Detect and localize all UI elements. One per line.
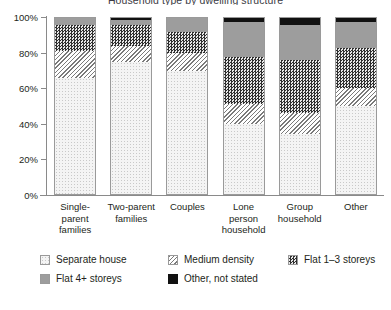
bar-segment[interactable] [336, 88, 376, 106]
bar-segment[interactable] [336, 48, 376, 88]
legend-item[interactable]: Medium density [168, 254, 288, 265]
legend-swatch-icon [40, 274, 50, 284]
legend-item[interactable]: Flat 4+ storeys [40, 273, 168, 284]
legend-item[interactable]: Other, not stated [168, 273, 288, 284]
y-axis-tick-label: 80% [0, 49, 38, 59]
legend-item[interactable]: Flat 1–3 storeys [288, 254, 375, 265]
bar-stack[interactable] [335, 17, 377, 195]
bar-segment[interactable] [167, 18, 207, 32]
x-axis-category-label: Other [321, 201, 391, 213]
bar-segment[interactable] [111, 46, 151, 62]
bar-stack[interactable] [166, 17, 208, 195]
legend-item-label: Medium density [184, 254, 254, 265]
bar-segment[interactable] [336, 106, 376, 194]
bar-segment[interactable] [280, 18, 320, 25]
bar-stack[interactable] [223, 17, 265, 195]
bar-segment[interactable] [111, 25, 151, 46]
bar-segment[interactable] [167, 32, 207, 53]
bar-segment[interactable] [55, 78, 95, 194]
x-axis-line [40, 195, 384, 196]
y-axis-tick-label: 60% [0, 84, 38, 94]
bar-segment[interactable] [167, 71, 207, 194]
chart-legend: Separate houseMedium densityFlat 1–3 sto… [40, 254, 380, 292]
legend-item-label: Flat 1–3 storeys [304, 254, 375, 265]
bar-stack[interactable] [54, 17, 96, 195]
bar-segment[interactable] [224, 22, 264, 57]
legend-row: Separate houseMedium densityFlat 1–3 sto… [40, 254, 380, 265]
bar-segment[interactable] [55, 18, 95, 25]
bar-segment[interactable] [224, 124, 264, 194]
legend-swatch-icon [288, 255, 298, 265]
y-axis-tick-label: 20% [0, 155, 38, 165]
bar-segment[interactable] [55, 25, 95, 51]
legend-row: Flat 4+ storeysOther, not stated [40, 273, 380, 284]
legend-item-label: Separate house [56, 254, 127, 265]
bar-stack[interactable] [279, 17, 321, 195]
y-axis-tick [41, 195, 47, 196]
y-axis-tick-label: 0% [0, 191, 38, 201]
legend-item-label: Other, not stated [184, 273, 258, 284]
bar-segment[interactable] [224, 104, 264, 123]
bar-segment[interactable] [224, 57, 264, 105]
bar-segment[interactable] [280, 60, 320, 113]
bar-segment[interactable] [55, 51, 95, 77]
plot-area [47, 17, 384, 195]
bar-segment[interactable] [280, 134, 320, 194]
bar-segment[interactable] [280, 113, 320, 134]
bar-segment[interactable] [111, 62, 151, 194]
legend-swatch-icon [168, 255, 178, 265]
legend-item[interactable]: Separate house [40, 254, 168, 265]
legend-swatch-icon [40, 255, 50, 265]
y-axis-tick-label: 40% [0, 120, 38, 130]
bar-segment[interactable] [336, 22, 376, 48]
legend-item-label: Flat 4+ storeys [56, 273, 122, 284]
bar-segment[interactable] [280, 25, 320, 60]
bar-segment[interactable] [167, 53, 207, 71]
bar-stack[interactable] [110, 17, 152, 195]
chart-title: Household type by dwelling structure [0, 0, 391, 5]
legend-swatch-icon [168, 274, 178, 284]
chart-figure: Household type by dwelling structure 0%2… [0, 0, 391, 310]
y-axis-tick-label: 100% [0, 13, 38, 23]
